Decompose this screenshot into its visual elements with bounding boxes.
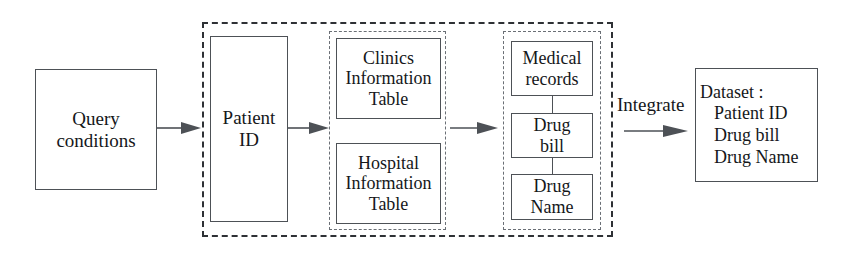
connector-medical-records-to-drug-bill <box>552 96 553 113</box>
node-patient-id-line1: Patient <box>223 107 276 129</box>
node-clinics-information-table-line3: Table <box>369 89 409 110</box>
node-hospital-information-table-line3: Table <box>369 194 409 215</box>
node-patient-id[interactable]: Patient ID <box>210 36 288 222</box>
node-hospital-information-table[interactable]: Hospital Information Table <box>336 143 441 224</box>
node-dataset[interactable]: Dataset : Patient ID Drug bill Drug Name <box>695 68 818 182</box>
node-hospital-information-table-line1: Hospital <box>358 153 419 174</box>
node-drug-bill-line1: Drug <box>534 115 571 136</box>
node-query-conditions[interactable]: Query conditions <box>35 69 157 190</box>
node-drug-name[interactable]: Drug Name <box>511 174 593 220</box>
node-dataset-item-1: Drug bill <box>700 125 780 147</box>
node-medical-records-line2: records <box>526 69 579 90</box>
node-dataset-item-0: Patient ID <box>700 103 788 125</box>
node-drug-name-line1: Drug <box>534 176 571 197</box>
arrow-records-to-dataset <box>624 124 690 138</box>
arrow-patient-to-tables <box>288 121 331 135</box>
connector-drug-bill-to-drug-name <box>552 158 553 174</box>
node-hospital-information-table-line2: Information <box>346 173 432 194</box>
node-drug-name-line2: Name <box>531 197 574 218</box>
node-patient-id-line2: ID <box>239 129 259 151</box>
label-integrate: Integrate <box>617 95 685 114</box>
node-clinics-information-table[interactable]: Clinics Information Table <box>336 38 441 119</box>
node-clinics-information-table-line1: Clinics <box>363 48 414 69</box>
arrow-tables-to-records <box>450 121 500 135</box>
node-query-conditions-line2: conditions <box>56 130 135 152</box>
node-medical-records[interactable]: Medical records <box>511 41 593 96</box>
node-clinics-information-table-line2: Information <box>346 68 432 89</box>
node-query-conditions-line1: Query <box>72 108 119 130</box>
arrow-query-to-patient <box>157 121 203 135</box>
node-drug-bill-line2: bill <box>540 136 564 157</box>
node-drug-bill[interactable]: Drug bill <box>511 113 593 158</box>
node-dataset-heading: Dataset : <box>700 82 763 104</box>
node-dataset-item-2: Drug Name <box>700 147 798 169</box>
diagram-canvas: Query conditions Patient ID Clinics Info… <box>0 0 853 257</box>
node-medical-records-line1: Medical <box>523 48 582 69</box>
